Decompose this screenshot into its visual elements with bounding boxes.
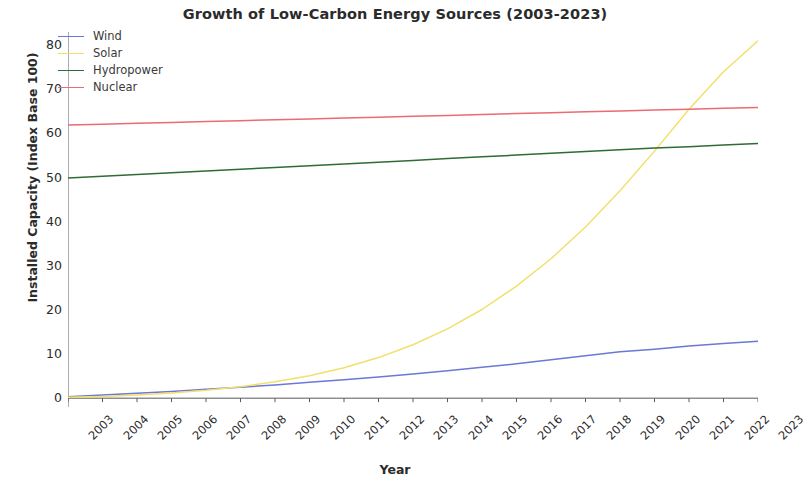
legend-item-nuclear[interactable]: Nuclear bbox=[58, 79, 188, 96]
y-tick-label: 70 bbox=[28, 83, 62, 96]
x-tick-label: 2020 bbox=[672, 412, 703, 443]
y-tick-label: 30 bbox=[28, 260, 62, 273]
x-tick-label: 2021 bbox=[707, 412, 738, 443]
legend-swatch-icon bbox=[58, 53, 84, 54]
legend-swatch-icon bbox=[58, 36, 84, 37]
chart-legend: WindSolarHydropowerNuclear bbox=[58, 28, 188, 96]
legend-item-wind[interactable]: Wind bbox=[58, 28, 188, 45]
x-tick-label: 2009 bbox=[293, 412, 324, 443]
legend-swatch-icon bbox=[58, 70, 84, 71]
x-tick-label: 2016 bbox=[534, 412, 565, 443]
legend-label: Solar bbox=[93, 48, 122, 60]
x-tick-label: 2005 bbox=[155, 412, 186, 443]
series-line-hydropower bbox=[68, 144, 758, 178]
y-tick-label: 0 bbox=[28, 392, 62, 405]
y-axis-tick-labels: 01020304050607080 bbox=[24, 32, 62, 407]
y-tick-label: 20 bbox=[28, 304, 62, 317]
x-tick-label: 2004 bbox=[120, 412, 151, 443]
x-tick-label: 2019 bbox=[638, 412, 669, 443]
legend-swatch-icon bbox=[58, 87, 84, 88]
x-tick-label: 2017 bbox=[569, 412, 600, 443]
x-tick-label: 2007 bbox=[224, 412, 255, 443]
x-tick-label: 2023 bbox=[776, 412, 806, 443]
legend-item-solar[interactable]: Solar bbox=[58, 45, 188, 62]
legend-label: Wind bbox=[93, 31, 122, 43]
x-tick-label: 2006 bbox=[189, 412, 220, 443]
series-line-wind bbox=[68, 341, 758, 397]
x-tick-label: 2011 bbox=[362, 412, 393, 443]
y-tick-label: 80 bbox=[28, 39, 62, 52]
x-tick-label: 2018 bbox=[603, 412, 634, 443]
legend-item-hydropower[interactable]: Hydropower bbox=[58, 62, 188, 79]
x-tick-label: 2012 bbox=[396, 412, 427, 443]
legend-label: Nuclear bbox=[93, 82, 137, 94]
x-tick-label: 2014 bbox=[465, 412, 496, 443]
x-tick-label: 2015 bbox=[500, 412, 531, 443]
legend-label: Hydropower bbox=[93, 65, 163, 77]
x-tick-label: 2008 bbox=[258, 412, 289, 443]
x-tick-label: 2013 bbox=[431, 412, 462, 443]
x-tick-label: 2022 bbox=[741, 412, 772, 443]
y-tick-label: 60 bbox=[28, 127, 62, 140]
x-tick-label: 2003 bbox=[86, 412, 117, 443]
chart-title: Growth of Low-Carbon Energy Sources (200… bbox=[0, 6, 790, 22]
series-line-nuclear bbox=[68, 107, 758, 125]
y-tick-label: 10 bbox=[28, 348, 62, 361]
y-tick-label: 50 bbox=[28, 172, 62, 185]
x-axis-tick-labels: 2003200420052006200720082009201020112012… bbox=[68, 412, 768, 472]
y-tick-label: 40 bbox=[28, 216, 62, 229]
x-tick-label: 2010 bbox=[327, 412, 358, 443]
